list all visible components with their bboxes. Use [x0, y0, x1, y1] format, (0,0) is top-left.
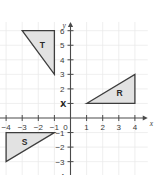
x-tick-label: 1 [84, 123, 89, 132]
x-tick-label: 3 [117, 123, 122, 132]
triangle-label-s: S [22, 137, 28, 147]
triangle-label-t: T [40, 40, 46, 50]
x-tick-label: −2 [34, 123, 44, 132]
x-tick-label: −3 [18, 123, 28, 132]
triangle-label-r: R [117, 88, 123, 98]
coordinate-plane-svg: −4−3−2−11234654321−1−2−3−40 xyTRSX [0, 0, 155, 175]
y-tick-label: 4 [60, 56, 65, 65]
y-tick-label: −3 [55, 158, 65, 167]
x-axis-arrow-icon [143, 115, 148, 120]
y-tick-label: −2 [55, 143, 65, 152]
x-tick-label: 2 [100, 123, 105, 132]
coordinate-plane-figure: −4−3−2−11234654321−1−2−3−40 xyTRSX [0, 0, 155, 175]
x-tick-label: −4 [2, 123, 12, 132]
y-tick-label: 3 [60, 70, 65, 79]
x-tick-label: 4 [133, 123, 138, 132]
y-axis-arrow-icon [68, 22, 73, 27]
y-tick-label: 2 [60, 85, 65, 94]
y-axis-label: y [62, 21, 67, 30]
x-axis-label: x [149, 119, 154, 128]
origin-label: 0 [63, 123, 68, 132]
point-marker-x: X [60, 99, 66, 109]
y-tick-label: −4 [55, 172, 65, 175]
y-tick-label: 5 [60, 41, 65, 50]
